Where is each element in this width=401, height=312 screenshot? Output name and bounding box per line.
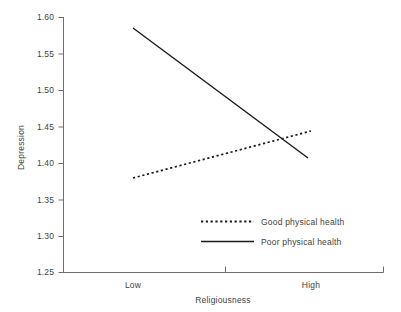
x-tick-label-low: Low: [103, 281, 163, 290]
y-tick-label-1-35: 1.35: [20, 196, 54, 205]
x-tick-label-high: High: [281, 281, 341, 290]
x-axis-ticks: [226, 267, 384, 273]
y-tick-label-1-60: 1.60: [20, 13, 54, 22]
y-tick-label-1-50: 1.50: [20, 86, 54, 95]
y-tick-label-1-30: 1.30: [20, 232, 54, 241]
y-tick-label-1-25: 1.25: [20, 268, 54, 277]
chart-plot-area: [0, 0, 401, 312]
chart-container: 1.60 1.55 1.50 1.45 1.40 1.35 1.30 1.25 …: [0, 0, 401, 312]
legend-label-good-physical-health: Good physical health: [261, 217, 344, 227]
legend-label-poor-physical-health: Poor physical health: [261, 237, 342, 247]
x-axis-title: Religiousness: [163, 295, 283, 305]
y-axis-ticks: [59, 18, 64, 273]
series-line-good-physical-health: [133, 131, 311, 178]
y-tick-label-1-55: 1.55: [20, 50, 54, 59]
y-axis-title: Depression: [16, 125, 26, 170]
